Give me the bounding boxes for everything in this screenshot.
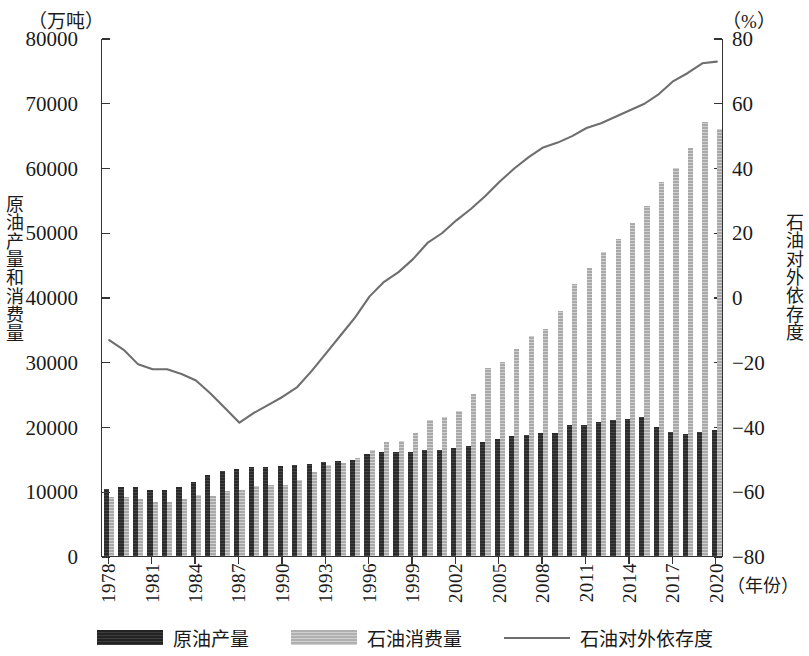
bar-consumption (124, 497, 129, 556)
bar-consumption (413, 433, 418, 556)
legend-swatch-line (504, 630, 570, 645)
x-axis-tick-label: 1987 (228, 563, 250, 603)
bar-consumption (673, 168, 678, 557)
y-axis-tick-label: 80000 (26, 27, 79, 52)
y-axis-tick (102, 168, 110, 169)
bar-consumption (399, 441, 404, 556)
bar-consumption (268, 485, 273, 556)
x-axis-tick-label: 2011 (576, 563, 598, 602)
x-axis-tick-label: 1996 (359, 563, 381, 603)
y-axis-tick (102, 297, 110, 298)
x-axis-tick-label: 1990 (272, 563, 294, 603)
bar-consumption (616, 239, 621, 556)
y-axis-tick-label: 30000 (26, 350, 79, 375)
bar-consumption (297, 480, 302, 556)
y2-axis-tick-label: 60 (732, 91, 753, 116)
x-axis-tick-label: 2008 (532, 563, 554, 603)
x-axis-tick-label: 1978 (98, 563, 120, 603)
y2-axis-tick-label: 40 (732, 156, 753, 181)
x-axis-tick-label: 1993 (315, 563, 337, 603)
bar-consumption (196, 495, 201, 556)
legend-label: 石油对外依存度 (580, 624, 713, 651)
bar-consumption (182, 499, 187, 556)
bar-consumption (702, 122, 707, 556)
x-axis-tick-label: 2014 (619, 563, 641, 603)
y2-axis-tick-label: 0 (732, 286, 743, 311)
bar-consumption (572, 284, 577, 556)
y-axis-tick (102, 38, 110, 39)
bar-consumption (138, 499, 143, 556)
chart-legend: 原油产量石油消费量石油对外依存度 (0, 620, 809, 654)
bar-consumption (587, 268, 592, 556)
legend-label: 原油产量 (173, 624, 249, 651)
bar-consumption (543, 329, 548, 556)
bar-consumption (427, 420, 432, 556)
bar-consumption (659, 182, 664, 556)
bar-consumption (254, 486, 259, 556)
bar-consumption (355, 458, 360, 556)
x-axis-tick-label: 2017 (662, 563, 684, 603)
y-axis-tick-label: 10000 (26, 480, 79, 505)
y-axis-tick (102, 103, 110, 104)
bar-consumption (225, 491, 230, 556)
y2-axis-tick-label: 80 (732, 27, 753, 52)
x-axis-tick-label: 2002 (445, 563, 467, 603)
bar-consumption (283, 485, 288, 556)
right-axis-title: 石油对外依存度 (784, 214, 806, 343)
y-axis-tick (102, 362, 110, 363)
legend-item: 石油对外依存度 (504, 624, 713, 651)
bar-consumption (514, 349, 519, 556)
bar-consumption (384, 442, 389, 556)
bar-consumption (630, 223, 635, 556)
y-axis-tick-label: 40000 (26, 286, 79, 311)
x-axis-tick-label: 1999 (402, 563, 424, 603)
bar-consumption (717, 129, 722, 556)
bar-consumption (644, 206, 649, 556)
chart-figure: （万吨） （%） 原油产量和消费量 石油对外依存度 （年份） 原油产量石油消费量… (0, 0, 809, 656)
bar-consumption (601, 252, 606, 556)
bar-consumption (529, 336, 534, 556)
y2-axis-tick-label: −60 (732, 480, 765, 505)
y-axis-tick-label: 70000 (26, 91, 79, 116)
y-axis-tick-label: 0 (68, 545, 79, 570)
bar-consumption (485, 368, 490, 556)
y-axis-tick (102, 427, 110, 428)
bar-consumption (239, 490, 244, 556)
bar-consumption (109, 497, 114, 556)
bar-consumption (370, 450, 375, 556)
y2-axis-tick-label: −20 (732, 350, 765, 375)
y2-axis-tick (714, 38, 722, 39)
x-axis-tick-label: 1981 (142, 563, 164, 603)
x-axis-unit-label: （年份） (727, 571, 799, 597)
y2-axis-tick-label: 20 (732, 221, 753, 246)
bar-consumption (326, 465, 331, 556)
bar-consumption (153, 502, 158, 556)
y-axis-tick (102, 233, 110, 234)
y2-axis-tick-label: −40 (732, 415, 765, 440)
y-axis-tick-label: 60000 (26, 156, 79, 181)
y-axis-tick-label: 50000 (26, 221, 79, 246)
bar-consumption (442, 417, 447, 556)
bar-consumption (341, 463, 346, 556)
y2-axis-tick (714, 103, 722, 104)
bar-consumption (500, 362, 505, 556)
legend-swatch-cons (291, 630, 357, 645)
bar-consumption (456, 411, 461, 556)
plot-area (101, 39, 723, 557)
bar-consumption (312, 472, 317, 556)
bar-consumption (471, 394, 476, 556)
bar-consumption (558, 311, 563, 556)
y2-axis-tick-label: −80 (732, 545, 765, 570)
x-axis-tick-label: 2020 (706, 563, 728, 603)
x-axis-tick-label: 2005 (489, 563, 511, 603)
left-axis-title: 原油产量和消费量 (4, 196, 26, 343)
legend-item: 原油产量 (97, 624, 249, 651)
legend-swatch-prod (97, 630, 163, 645)
x-axis-tick-label: 1984 (185, 563, 207, 603)
legend-label: 石油消费量 (367, 624, 462, 651)
y-axis-tick-label: 20000 (26, 415, 79, 440)
bar-consumption (210, 496, 215, 556)
legend-item: 石油消费量 (291, 624, 462, 651)
bar-consumption (167, 502, 172, 556)
bar-consumption (688, 148, 693, 556)
